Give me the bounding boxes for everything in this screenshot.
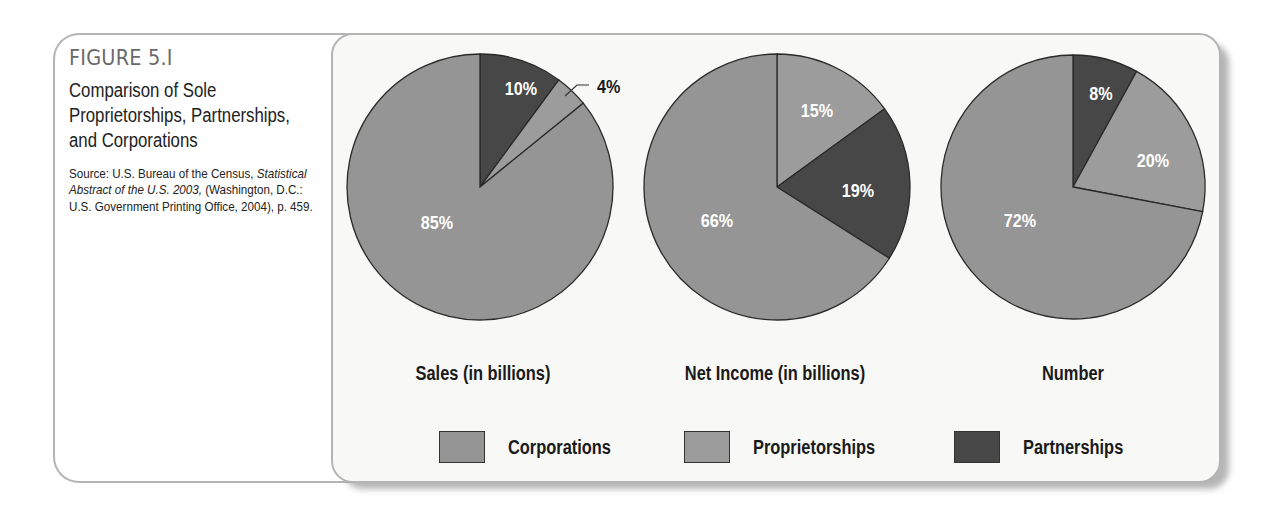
pie-title-net-income: Net Income (in billions) <box>685 362 865 385</box>
slice-label-partnerships: 8% <box>1089 83 1113 105</box>
slice-label-partnerships: 19% <box>842 180 875 202</box>
callout-label-proprietorships: 4% <box>597 76 621 98</box>
pie-chart-number: 8%20%72% <box>941 55 1205 319</box>
pie-charts: 10%85%4% 15%19%66% 8%20%72% <box>0 0 1287 511</box>
slice-label-partnerships: 10% <box>505 78 538 100</box>
pie-chart-sales: 10%85%4% <box>347 54 621 320</box>
pie-chart-net-income: 15%19%66% <box>644 54 910 320</box>
legend-label-corporations: Corporations <box>508 436 611 459</box>
slice-label-proprietorships: 20% <box>1137 150 1170 172</box>
slice-label-corporations: 72% <box>1004 210 1037 232</box>
legend-swatch-corporations <box>439 431 485 463</box>
legend-label-partnerships: Partnerships <box>1023 436 1123 459</box>
pie-title-number: Number <box>1042 362 1104 385</box>
legend-swatch-proprietorships <box>684 431 730 463</box>
slice-label-proprietorships: 15% <box>801 100 834 122</box>
legend-label-proprietorships: Proprietorships <box>753 436 875 459</box>
slice-label-corporations: 66% <box>701 210 734 232</box>
legend-swatch-partnerships <box>954 431 1000 463</box>
pie-title-sales: Sales (in billions) <box>416 362 551 385</box>
slice-label-corporations: 85% <box>421 212 454 234</box>
